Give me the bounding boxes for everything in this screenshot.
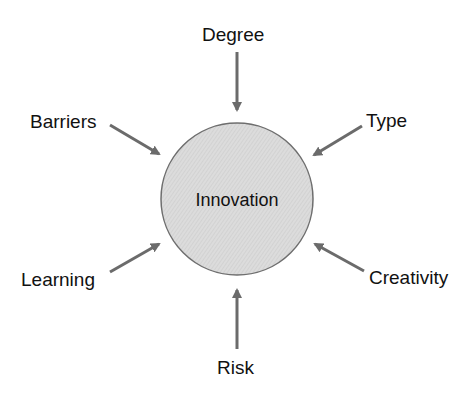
label-barriers: Barriers: [30, 112, 97, 131]
arrow-type: [314, 126, 362, 155]
arrow-creativity: [315, 244, 364, 271]
arrow-barriers: [110, 125, 159, 154]
label-creativity: Creativity: [369, 268, 448, 287]
center-label-innovation: Innovation: [195, 191, 278, 209]
label-learning: Learning: [21, 270, 95, 289]
arrow-learning: [110, 244, 159, 272]
label-risk: Risk: [217, 358, 254, 377]
label-type: Type: [366, 111, 407, 130]
label-degree: Degree: [202, 25, 264, 44]
